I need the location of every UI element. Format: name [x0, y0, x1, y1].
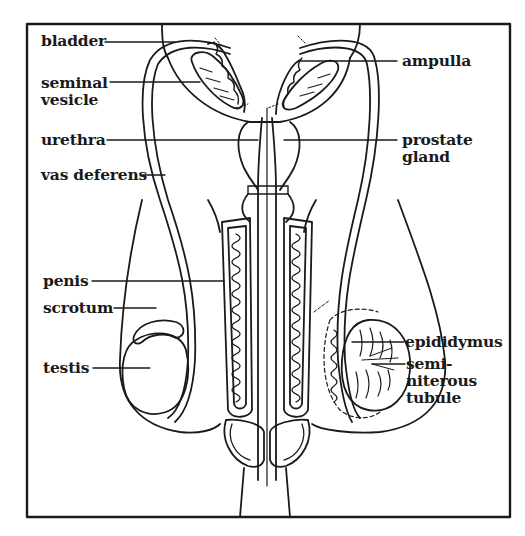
seminiferous-tubules — [356, 328, 392, 398]
corpus-left-inner — [228, 226, 246, 409]
corpus-left-wavy — [232, 234, 240, 402]
label-ampulla: ampulla — [402, 52, 471, 69]
label-urethra: urethra — [41, 131, 106, 148]
corpus-right-outer — [284, 218, 312, 417]
torso-left-line — [162, 24, 168, 58]
vas-deferens-left-inner — [152, 48, 230, 422]
anatomy-diagram: bladder seminal vesicle urethra vas defe… — [0, 0, 525, 536]
label-bladder: bladder — [41, 32, 106, 49]
label-vas-deferens: vas deferens — [41, 166, 147, 183]
testis-left-cap — [133, 321, 183, 344]
label-testis: testis — [43, 359, 89, 376]
scrotum-left — [120, 200, 220, 433]
crus-left — [208, 200, 220, 232]
label-scrotum: scrotum — [43, 299, 113, 316]
dash-line-right — [268, 36, 306, 108]
prostate-left — [238, 122, 258, 190]
corpus-right-inner — [290, 226, 306, 409]
corpus-right-wavy — [292, 234, 300, 402]
label-seminiferous-tubule: semi- niterous tubule — [406, 355, 477, 406]
label-prostate-gland: prostate gland — [402, 131, 473, 165]
leg-left — [240, 468, 244, 517]
seminal-vesicle-right-folds — [300, 74, 330, 96]
epididymis-wavy — [331, 330, 337, 402]
prostate-right — [280, 122, 300, 190]
testis-left — [123, 333, 189, 413]
dash-spermatic — [314, 300, 330, 312]
label-seminal-vesicle: seminal vesicle — [41, 74, 108, 108]
leg-right — [286, 468, 290, 517]
vas-deferens-right-inner — [300, 48, 370, 422]
corpus-left-outer — [222, 218, 252, 417]
label-penis: penis — [43, 272, 89, 289]
label-epididymus: epididymus — [405, 333, 503, 350]
